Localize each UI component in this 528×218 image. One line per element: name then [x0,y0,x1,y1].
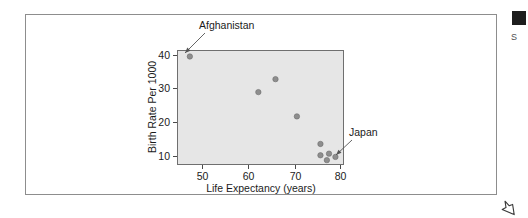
scatter-chart: 10203040 50607080 Birth Rate Per 1000 Li… [0,0,528,218]
chart-svg: 10203040 50607080 Birth Rate Per 1000 Li… [0,0,528,218]
data-point [326,151,331,156]
data-point [187,54,192,59]
margin-marker-icon [512,11,526,25]
y-tick-label: 20 [158,116,170,128]
x-tick-label: 80 [335,170,347,182]
y-tick-label: 30 [158,82,170,94]
data-point [273,76,278,81]
data-point [256,89,261,94]
x-tick-label: 50 [197,170,209,182]
data-point [333,154,338,159]
mouse-pointer-icon [500,199,516,216]
x-tick-label: 70 [290,170,302,182]
x-tick-label: 60 [243,170,255,182]
y-tick-label: 10 [158,150,170,162]
annotation-label: Afghanistan [199,19,255,31]
data-point [324,157,329,162]
x-axis: 50607080 [197,165,347,182]
y-axis: 10203040 [158,49,177,162]
plot-area [178,51,344,165]
y-tick-label: 40 [158,49,170,61]
data-point [294,114,299,119]
data-point [318,153,323,158]
x-axis-title: Life Expectancy (years) [206,182,316,194]
margin-note: S [511,32,528,42]
y-axis-title: Birth Rate Per 1000 [146,61,158,153]
annotation-label: Japan [349,126,378,138]
data-point [318,141,323,146]
